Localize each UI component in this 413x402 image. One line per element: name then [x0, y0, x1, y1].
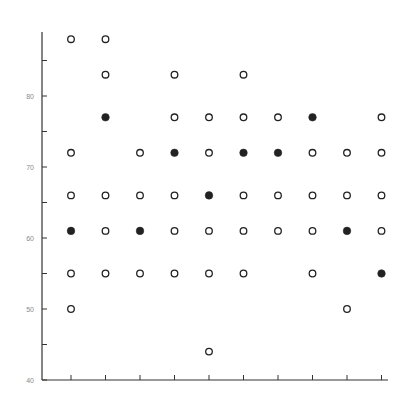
open-marker — [378, 114, 385, 121]
open-marker — [275, 192, 282, 199]
open-marker — [137, 192, 144, 199]
y-tick-label: 70 — [26, 164, 34, 171]
open-marker — [240, 71, 247, 78]
open-marker — [240, 228, 247, 235]
filled-marker — [67, 227, 75, 235]
open-marker — [206, 270, 213, 277]
y-tick-label: 50 — [26, 306, 34, 313]
open-marker — [171, 114, 178, 121]
filled-marker — [102, 114, 110, 122]
open-marker — [378, 150, 385, 157]
open-marker — [68, 192, 75, 199]
open-marker — [206, 228, 213, 235]
open-marker — [68, 270, 75, 277]
open-marker — [240, 192, 247, 199]
open-marker — [309, 228, 316, 235]
open-marker — [171, 228, 178, 235]
open-marker — [309, 192, 316, 199]
y-tick-label: 60 — [26, 235, 34, 242]
y-axis-ticks: 4050607080 — [26, 61, 47, 384]
open-marker — [102, 270, 109, 277]
open-marker — [378, 192, 385, 199]
filled-marker — [171, 149, 179, 157]
filled-marker — [274, 149, 282, 157]
open-marker — [378, 228, 385, 235]
open-marker — [206, 348, 213, 355]
filled-marker — [309, 114, 317, 122]
open-marker — [275, 228, 282, 235]
open-marker — [68, 306, 75, 313]
data-points — [67, 36, 385, 355]
open-marker — [137, 270, 144, 277]
open-marker — [206, 150, 213, 157]
open-marker — [102, 36, 109, 43]
filled-marker — [240, 149, 248, 157]
open-marker — [240, 114, 247, 121]
axes — [42, 32, 388, 380]
filled-marker — [136, 227, 144, 235]
open-marker — [240, 270, 247, 277]
x-axis-ticks — [71, 375, 382, 380]
open-marker — [68, 36, 75, 43]
filled-marker — [343, 227, 351, 235]
open-marker — [309, 270, 316, 277]
open-marker — [206, 114, 213, 121]
open-marker — [171, 71, 178, 78]
open-marker — [102, 228, 109, 235]
open-marker — [171, 192, 178, 199]
open-marker — [344, 306, 351, 313]
open-marker — [171, 270, 178, 277]
open-marker — [275, 114, 282, 121]
scatter-chart: 4050607080 — [0, 0, 413, 402]
open-marker — [344, 150, 351, 157]
filled-marker — [205, 192, 213, 200]
open-marker — [102, 192, 109, 199]
open-marker — [137, 150, 144, 157]
open-marker — [102, 71, 109, 78]
open-marker — [344, 192, 351, 199]
open-marker — [68, 150, 75, 157]
y-tick-label: 40 — [26, 377, 34, 384]
y-tick-label: 80 — [26, 93, 34, 100]
filled-marker — [378, 270, 386, 278]
open-marker — [309, 150, 316, 157]
